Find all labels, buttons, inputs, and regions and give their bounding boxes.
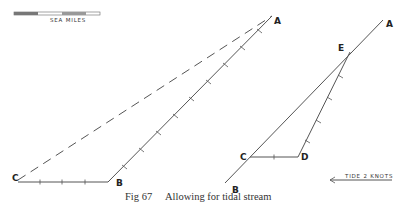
point-c-label: C — [12, 173, 19, 183]
figure-number: Fig 67 — [125, 191, 152, 202]
scale-bar: SEA MILES — [14, 12, 100, 23]
caption-text: Allowing for tidal stream — [165, 191, 271, 202]
tide-arrow: TIDE 2 KNOTS — [330, 173, 393, 183]
point-d-label: D — [301, 152, 308, 162]
point-a-label: A — [386, 19, 393, 29]
point-a-label: A — [274, 16, 281, 26]
line-de — [298, 52, 350, 157]
scale-bar-label: SEA MILES — [50, 17, 86, 23]
tide-label: TIDE 2 KNOTS — [344, 173, 393, 179]
line-ba — [108, 16, 272, 182]
tidal-stream-diagram: SEA MILES A B C — [0, 0, 405, 203]
point-b-label: B — [116, 178, 123, 188]
point-e-label: E — [338, 43, 344, 53]
right-figure: A B C D E — [225, 19, 393, 195]
left-figure: A B C — [12, 16, 281, 188]
point-c-label: C — [240, 152, 247, 162]
caption: Fig 67 Allowing for tidal stream — [125, 191, 271, 202]
dashed-line-ca — [18, 16, 272, 180]
